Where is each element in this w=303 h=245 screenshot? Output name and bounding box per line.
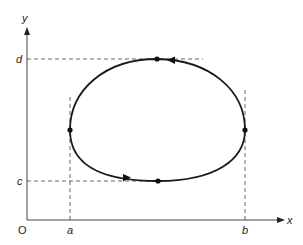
direction-arrow-right-icon [123,174,131,182]
point-right [242,127,247,132]
point-bottom [155,178,160,183]
point-top [154,56,159,61]
y-axis-label: y [21,12,29,24]
direction-arrow-left-icon [167,57,175,65]
b-label: b [242,224,248,236]
closed-curve [70,59,245,181]
a-label: a [67,224,73,236]
origin-label: O [18,224,27,236]
d-label: d [16,53,23,65]
axes [24,27,285,223]
y-axis-arrow-icon [24,27,30,35]
marked-points [67,56,247,183]
diagram-canvas: y x O a b c d [0,0,303,245]
x-axis-label: x [286,214,293,226]
point-left [67,127,72,132]
bounding-guides [27,59,245,220]
x-axis-arrow-icon [277,217,285,223]
c-label: c [17,175,23,187]
